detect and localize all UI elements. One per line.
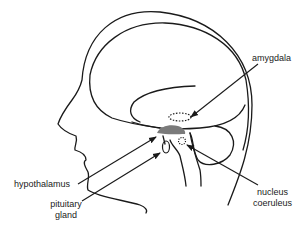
nucleus-coeruleus-arrow [187, 145, 258, 185]
brain-base [132, 105, 245, 129]
hypothalamus-region [157, 125, 185, 134]
pituitary-label-line1: pituitary [46, 199, 86, 210]
amygdala-label: amygdala [252, 53, 291, 64]
hypothalamus-label: hypothalamus [14, 179, 70, 190]
pituitary-arrow [82, 153, 160, 201]
nucleus-label-line2: coeruleus [250, 198, 295, 209]
nucleus-coeruleus-shape [179, 138, 186, 145]
nucleus-label-line1: nucleus [250, 187, 295, 198]
limbic-curve [131, 86, 195, 122]
nucleus-coeruleus-label: nucleus coeruleus [250, 187, 295, 209]
skull-outline [58, 12, 252, 213]
hypothalamus-arrow [78, 137, 156, 184]
pituitary-gland-shape [163, 141, 170, 153]
pituitary-gland-label: pituitary gland [46, 199, 86, 221]
brainstem-front [170, 140, 186, 186]
pituitary-label-line2: gland [46, 210, 86, 221]
amygdala-shape [169, 113, 191, 121]
brainstem-back [190, 133, 201, 186]
